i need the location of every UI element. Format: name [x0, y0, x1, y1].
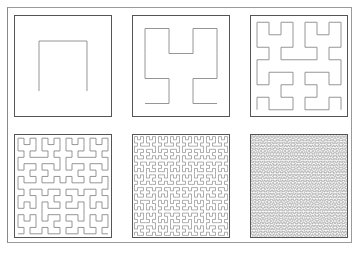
hilbert-curve: [252, 136, 347, 236]
hilbert-curve: [145, 29, 217, 104]
hilbert-curve: [134, 137, 227, 236]
hilbert-panel-order-5: [132, 134, 230, 238]
hilbert-panel-order-2: [132, 15, 230, 117]
hilbert-curve: [257, 22, 341, 110]
hilbert-panel-order-6: [250, 134, 348, 238]
hilbert-panel-order-4: [14, 134, 112, 238]
hilbert-curve: [18, 138, 108, 234]
hilbert-panel-order-3: [250, 15, 348, 117]
hilbert-curve: [39, 41, 87, 91]
hilbert-panel-order-1: [14, 15, 112, 117]
